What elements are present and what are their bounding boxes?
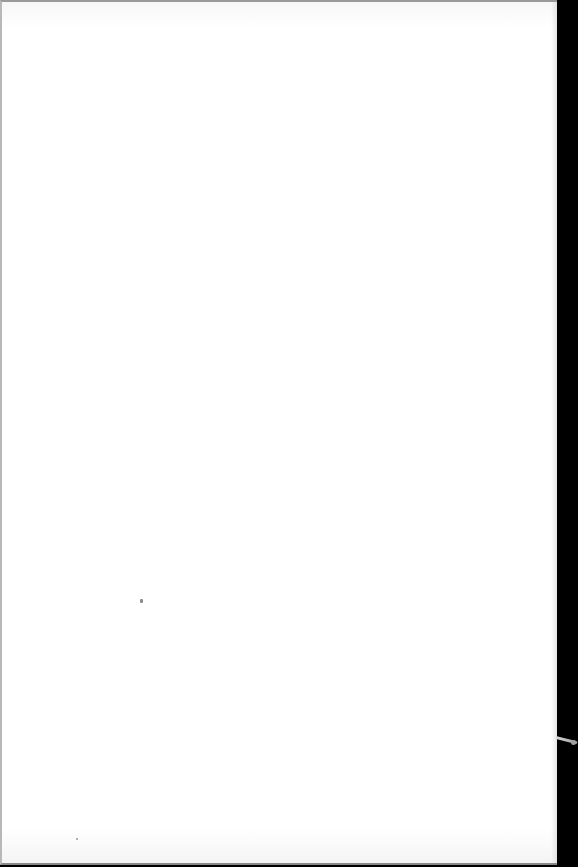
paper-edge-shadow	[551, 2, 557, 863]
dark-background	[0, 0, 578, 867]
dust-speck-small	[76, 838, 78, 840]
stray-fiber-tip	[571, 740, 576, 745]
blank-paper-sheet	[0, 0, 557, 865]
dust-speck	[140, 599, 143, 603]
